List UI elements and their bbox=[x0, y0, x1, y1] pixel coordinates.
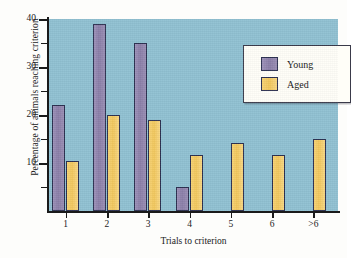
legend-entry-aged: Aged bbox=[261, 77, 309, 91]
bar-young-2 bbox=[93, 24, 106, 211]
bar-young-1 bbox=[52, 105, 65, 211]
x-axis-title: Trials to criterion bbox=[49, 236, 338, 246]
plot-area: Young Aged bbox=[49, 19, 338, 211]
legend-label-aged: Aged bbox=[287, 79, 309, 90]
x-tick-2 bbox=[107, 213, 109, 218]
y-tick-label-30: 30 bbox=[27, 61, 37, 71]
y-axis-title: Percentage of animals reaching criterion bbox=[30, 0, 40, 202]
bar-young-3 bbox=[134, 43, 147, 211]
legend-label-young: Young bbox=[287, 59, 313, 70]
legend-entry-young: Young bbox=[261, 57, 313, 71]
y-tick-40: 40 bbox=[39, 19, 47, 21]
x-tick-label-5: 5 bbox=[228, 219, 233, 229]
bar-aged->6 bbox=[313, 139, 326, 211]
legend-swatch-young bbox=[261, 57, 278, 71]
x-tick-label-6: 6 bbox=[270, 219, 275, 229]
x-tick-label-3: 3 bbox=[146, 219, 151, 229]
x-tick-label-2: 2 bbox=[105, 219, 110, 229]
x-tick-label-1: 1 bbox=[63, 219, 68, 229]
y-tick-minor-35 bbox=[41, 43, 47, 44]
bar-aged-5 bbox=[231, 143, 244, 211]
x-tick-label-4: 4 bbox=[187, 219, 192, 229]
x-tick-label->6: >6 bbox=[308, 219, 318, 229]
y-tick-30: 30 bbox=[39, 67, 47, 69]
y-tick-label-40: 40 bbox=[27, 13, 37, 23]
y-tick-label-20: 20 bbox=[27, 109, 37, 119]
y-tick-minor-5 bbox=[41, 187, 47, 188]
x-axis-line bbox=[47, 211, 340, 213]
y-tick-minor-25 bbox=[41, 91, 47, 92]
bar-young-4 bbox=[176, 187, 189, 211]
y-tick-20: 20 bbox=[39, 115, 47, 117]
chart-legend: Young Aged bbox=[243, 45, 351, 103]
y-tick-10: 10 bbox=[39, 163, 47, 165]
y-tick-label-10: 10 bbox=[27, 157, 37, 167]
bar-aged-1 bbox=[66, 161, 79, 211]
bar-aged-2 bbox=[107, 115, 120, 211]
x-tick-5 bbox=[231, 213, 233, 218]
x-tick-6 bbox=[272, 213, 274, 218]
y-tick-minor-15 bbox=[41, 139, 47, 140]
x-tick->6 bbox=[313, 213, 315, 218]
bar-aged-3 bbox=[148, 120, 161, 211]
legend-swatch-aged bbox=[261, 77, 278, 91]
x-tick-1 bbox=[66, 213, 68, 218]
x-tick-3 bbox=[148, 213, 150, 218]
bar-aged-4 bbox=[190, 155, 203, 211]
bar-aged-6 bbox=[272, 155, 285, 211]
x-tick-4 bbox=[190, 213, 192, 218]
